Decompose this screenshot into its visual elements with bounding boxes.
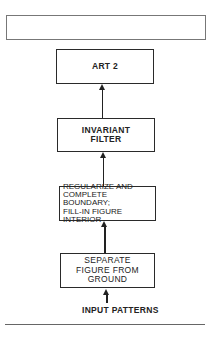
- art2-box: ART 2: [56, 49, 154, 84]
- regularize-box: REGULARIZE AND COMPLETE BOUNDARY; FILL-I…: [59, 186, 156, 221]
- art2-label: ART 2: [92, 62, 118, 72]
- regularize-line-2: COMPLETE BOUNDARY;: [63, 191, 155, 207]
- invariant-filter-box: INVARIANT FILTER: [57, 118, 155, 152]
- arrow-up-icon: [106, 294, 108, 303]
- separate-box: SEPARATE FIGURE FROM GROUND: [60, 253, 155, 288]
- arrow-up-icon: [102, 89, 104, 118]
- top-empty-box: [6, 15, 206, 40]
- regularize-line-4: INTERIOR: [63, 216, 101, 224]
- bottom-divider: [5, 324, 205, 325]
- invariant-filter-line-2: FILTER: [91, 135, 122, 145]
- separate-line-3: GROUND: [88, 275, 128, 285]
- arrow-up-icon: [104, 226, 106, 253]
- input-patterns-label: INPUT PATTERNS: [82, 305, 159, 315]
